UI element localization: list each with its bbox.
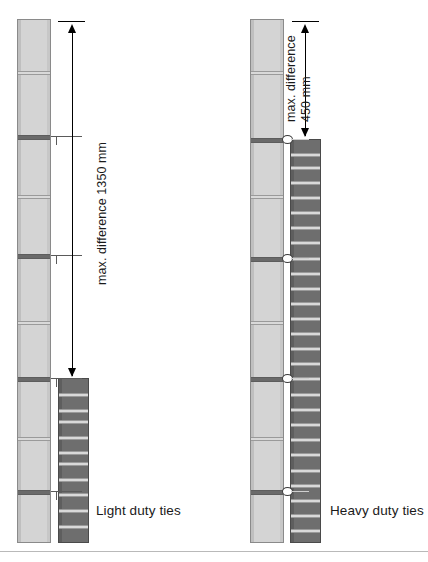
tie-band	[291, 241, 320, 245]
tie-band	[59, 393, 88, 397]
tie-comparison-diagram: max. difference 1350 mm Light duty ties	[0, 0, 428, 562]
rail-joint-major	[18, 135, 50, 140]
tie-band	[59, 525, 88, 529]
rail-joint	[18, 195, 50, 199]
tie-band	[291, 302, 320, 306]
rail-joint	[251, 195, 283, 199]
tie-band	[291, 287, 320, 291]
tie-band	[291, 529, 320, 533]
heavy-duty-dimension-label-prefix: max. difference	[284, 35, 298, 122]
rail-joint-major	[251, 257, 283, 262]
connector-stub	[291, 491, 309, 492]
light-duty-dimension-label: max. difference 1350 mm	[95, 142, 109, 285]
heavy-duty-dimension-label-value: 450 mm	[299, 76, 313, 122]
dimension-leader-tick	[56, 491, 57, 500]
connector-stub	[291, 258, 309, 259]
tie-band	[59, 409, 88, 413]
tie-band	[291, 153, 320, 157]
bottom-divider	[0, 551, 428, 552]
tie-band	[291, 211, 320, 215]
rail-joint	[251, 71, 283, 75]
connector-stub	[291, 139, 309, 140]
dimension-leader-tick	[56, 255, 57, 264]
light-duty-caption: Light duty ties	[96, 503, 181, 518]
rail-joint-major	[251, 490, 283, 495]
dimension-arrow-down-icon	[68, 368, 76, 377]
connector-stub	[291, 378, 309, 379]
heavy-duty-tie-bar	[290, 139, 321, 543]
heavy-duty-caption: Heavy duty ties	[330, 503, 424, 518]
rail-joint-major	[18, 377, 50, 382]
dimension-arrow-up-icon	[301, 24, 309, 33]
tie-band	[291, 181, 320, 185]
dimension-leader-tick	[56, 378, 57, 387]
dimension-arrow-up-icon	[68, 24, 76, 33]
light-duty-tie-bar	[58, 378, 89, 543]
rail-left-shading	[251, 20, 254, 542]
rail-joint-major	[18, 254, 50, 259]
tie-band	[291, 166, 320, 170]
tie-band	[59, 493, 88, 497]
heavy-duty-rail	[250, 19, 284, 543]
rail-joint-major	[251, 377, 283, 382]
tie-band	[291, 272, 320, 276]
dimension-leader-tick	[56, 136, 57, 145]
rail-right-shading	[47, 20, 50, 542]
dimension-top-cap	[292, 21, 319, 22]
tie-band	[59, 420, 88, 424]
rail-left-shading	[18, 20, 21, 542]
tie-band	[291, 347, 320, 351]
tie-band	[291, 408, 320, 412]
tie-band	[59, 451, 88, 455]
tie-band	[291, 469, 320, 473]
tie-band	[59, 462, 88, 466]
tie-band	[291, 514, 320, 518]
rail-joint	[251, 321, 283, 325]
tie-band	[291, 499, 320, 503]
tie-band	[291, 423, 320, 427]
light-duty-rail	[17, 19, 51, 543]
tie-band	[291, 453, 320, 457]
tie-band	[59, 509, 88, 513]
rail-joint	[18, 71, 50, 75]
tie-band	[291, 226, 320, 230]
tie-bar-shading	[291, 140, 294, 542]
tie-band	[291, 362, 320, 366]
tie-band	[59, 478, 88, 482]
dimension-line	[72, 26, 73, 376]
tie-band	[291, 317, 320, 321]
tie-band	[59, 436, 88, 440]
rail-joint	[251, 437, 283, 441]
tie-bar-shading	[59, 379, 62, 542]
dimension-top-cap	[58, 21, 85, 22]
rail-joint-major	[251, 138, 283, 143]
rail-joint	[18, 321, 50, 325]
tie-band	[291, 196, 320, 200]
dimension-arrow-down-icon	[301, 128, 309, 137]
rail-joint	[18, 437, 50, 441]
tie-band	[291, 332, 320, 336]
rail-right-shading	[280, 20, 283, 542]
rail-joint-major	[18, 490, 50, 495]
tie-band	[291, 438, 320, 442]
tie-band	[291, 484, 320, 488]
tie-band	[291, 393, 320, 397]
